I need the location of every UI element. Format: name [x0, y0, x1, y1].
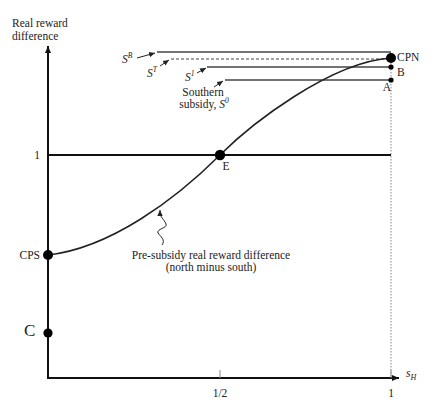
label-e: E: [222, 160, 229, 172]
arrow-s-b: [137, 53, 155, 58]
label-cpn: CPN: [397, 51, 420, 63]
y-axis-label-line2: difference: [12, 30, 58, 42]
x-axis-label: sH: [406, 367, 417, 382]
label-cps: CPS: [20, 249, 40, 261]
label-s-1: S1: [185, 69, 195, 83]
x-tick-label-half: 1/2: [213, 387, 228, 399]
arrow-s-1: [197, 68, 206, 73]
label-southern-text: subsidy,: [179, 98, 219, 111]
x-axis-label-sub: H: [409, 373, 417, 382]
label-s-t-sup: T: [153, 65, 158, 74]
y-tick-label-one: 1: [34, 149, 40, 161]
curve-pointer-squiggle: [158, 213, 166, 245]
economics-figure: Real reward difference 1/2 1 sH 1 SB ST …: [0, 0, 436, 415]
label-southern-line1: Southern: [182, 86, 224, 98]
label-s-b-sup: B: [128, 51, 133, 60]
point-e: [215, 150, 225, 160]
y-axis-label-line1: Real reward: [12, 17, 68, 29]
curve-label-line2: (north minus south): [166, 261, 257, 274]
point-c: [43, 328, 52, 337]
label-c: C: [24, 321, 35, 340]
label-southern-sup: 0: [225, 96, 229, 105]
label-a: A: [383, 81, 392, 93]
x-tick-label-one: 1: [388, 387, 394, 399]
label-b: B: [397, 66, 405, 78]
point-cps: [43, 250, 53, 260]
arrow-s-t: [160, 60, 169, 66]
point-b: [388, 64, 393, 69]
label-s-b: SB: [122, 51, 133, 65]
label-southern-line2: subsidy, S0: [179, 96, 229, 111]
label-s-1-sup: 1: [191, 69, 195, 78]
point-cpn: [386, 53, 396, 63]
label-s-t: ST: [147, 65, 158, 79]
